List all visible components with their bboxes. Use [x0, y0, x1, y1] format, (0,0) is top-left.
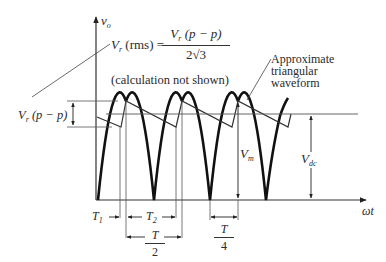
t2-label: T2 — [146, 210, 157, 225]
vdc-label: Vdc — [301, 152, 317, 168]
rectified-sine-wave — [98, 92, 288, 200]
t1-label: T1 — [92, 210, 103, 225]
half-period-label: T 2 — [145, 229, 165, 258]
triangular-annotation-line-3: waveform — [271, 77, 320, 89]
formula-leader-line — [32, 44, 110, 97]
quarter-period-label: T 4 — [214, 223, 234, 252]
vr-pp-label: Vr (p − p) — [18, 109, 67, 124]
rms-formula-fraction: Vr (p − p) 2√3 — [162, 27, 230, 61]
rms-formula-lhs: Vr (rms) = — [111, 38, 164, 54]
y-axis-label: vo — [101, 14, 111, 30]
x-axis-label: ωt — [362, 205, 374, 217]
triangular-annotation-leader-line — [247, 59, 271, 100]
vm-label: Vm — [240, 147, 254, 163]
calculation-note: (calculation not shown) — [111, 74, 229, 87]
